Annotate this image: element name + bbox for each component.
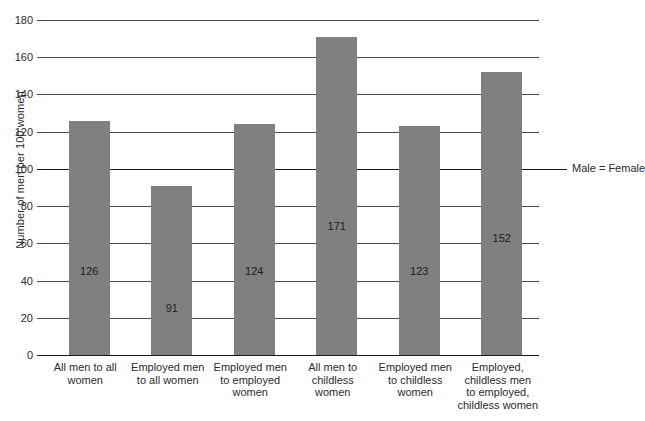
x-axis-label-line: childless women	[453, 399, 544, 412]
bar-value-label: 126	[69, 265, 110, 277]
y-tick-100	[37, 169, 44, 170]
y-tick-20	[37, 318, 44, 319]
y-tick-label-180: 180	[15, 14, 33, 26]
y-tick-label-100: 100	[15, 163, 33, 175]
y-tick-0	[37, 355, 44, 356]
x-axis-label-line: women	[288, 386, 379, 399]
gridline-40	[44, 281, 539, 282]
reference-line-marker	[545, 169, 567, 170]
gridline-60	[44, 243, 539, 244]
bar	[316, 37, 357, 355]
bar	[481, 72, 522, 355]
x-axis-label-line: All men to all	[40, 361, 131, 374]
x-axis-label-line: childless	[288, 374, 379, 387]
x-axis-label: All men tochildlesswomen	[288, 361, 379, 399]
gridline-180	[44, 20, 539, 21]
x-axis-label-line: to childless	[370, 374, 461, 387]
y-tick-180	[37, 20, 44, 21]
x-axis-label: Employed,childless mento employed,childl…	[453, 361, 544, 411]
x-axis-label-line: to employed,	[453, 386, 544, 399]
x-axis-label: Employed mento childlesswomen	[370, 361, 461, 399]
bar-value-label: 152	[481, 232, 522, 244]
bar-value-label: 124	[234, 265, 275, 277]
x-axis-label-line: Employed men	[370, 361, 461, 374]
y-tick-80	[37, 206, 44, 207]
gridline-20	[44, 318, 539, 319]
y-tick-label-20: 20	[21, 312, 33, 324]
plot-area: 020406080100120140160180 126911241711231…	[44, 20, 539, 355]
bar	[399, 126, 440, 355]
y-tick-label-120: 120	[15, 126, 33, 138]
x-axis-label: Employed mento all women	[123, 361, 214, 386]
x-axis-label-line: women	[205, 386, 296, 399]
gridline-160	[44, 57, 539, 58]
y-tick-label-140: 140	[15, 88, 33, 100]
y-tick-label-40: 40	[21, 275, 33, 287]
gridline-80	[44, 206, 539, 207]
bar	[151, 186, 192, 355]
bar-value-label: 123	[399, 265, 440, 277]
axis-baseline	[44, 355, 539, 356]
y-tick-60	[37, 243, 44, 244]
y-tick-label-160: 160	[15, 51, 33, 63]
y-tick-140	[37, 94, 44, 95]
bar	[234, 124, 275, 355]
x-axis-label-line: to all women	[123, 374, 214, 387]
y-tick-label-0: 0	[27, 349, 33, 361]
x-axis-label: All men to allwomen	[40, 361, 131, 386]
bar-value-label: 171	[316, 220, 357, 232]
reference-line-label: Male = Female	[572, 162, 645, 174]
bar	[69, 121, 110, 356]
x-axis-label-line: Employed,	[453, 361, 544, 374]
x-axis-label-line: All men to	[288, 361, 379, 374]
x-axis-label: Employed mento employedwomen	[205, 361, 296, 399]
bar-value-label: 91	[151, 302, 192, 314]
x-axis-label-line: Employed men	[123, 361, 214, 374]
y-tick-160	[37, 57, 44, 58]
x-axis-label-line: Employed men	[205, 361, 296, 374]
y-tick-label-80: 80	[21, 200, 33, 212]
x-axis-label-line: women	[40, 374, 131, 387]
gridline-120	[44, 132, 539, 133]
y-tick-label-60: 60	[21, 237, 33, 249]
y-tick-120	[37, 132, 44, 133]
x-axis-label-line: women	[370, 386, 461, 399]
gridline-140	[44, 94, 539, 95]
x-axis-label-line: to employed	[205, 374, 296, 387]
y-tick-40	[37, 281, 44, 282]
x-axis-label-line: childless men	[453, 374, 544, 387]
